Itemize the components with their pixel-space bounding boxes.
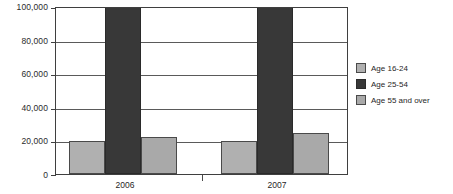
bar-2006-age-16-24 bbox=[69, 141, 105, 174]
bar-2006-age-25-54 bbox=[105, 8, 141, 174]
bar-2007-age-55-and-over bbox=[293, 133, 329, 174]
legend: Age 16-24 Age 25-54 Age 55 and over bbox=[356, 60, 451, 108]
legend-swatch-icon bbox=[356, 79, 366, 89]
y-axis-tick-label: 60,000 bbox=[21, 70, 48, 79]
x-axis-label-2006: 2006 bbox=[116, 180, 135, 190]
legend-swatch-icon bbox=[356, 95, 366, 105]
bar-2006-age-55-and-over bbox=[141, 137, 177, 174]
legend-item-label: Age 55 and over bbox=[371, 96, 430, 105]
plot-area bbox=[55, 7, 348, 175]
x-axis-label-2007: 2007 bbox=[268, 180, 287, 190]
bar-2007-age-16-24 bbox=[221, 141, 257, 174]
y-axis-tick-label: 0 bbox=[43, 171, 48, 180]
legend-item-age-25-54[interactable]: Age 25-54 bbox=[356, 76, 451, 92]
legend-item-label: Age 16-24 bbox=[371, 64, 408, 73]
y-axis-tick-mark bbox=[51, 175, 56, 176]
bars-layer bbox=[56, 8, 347, 174]
legend-swatch-icon bbox=[356, 63, 366, 73]
legend-item-age-16-24[interactable]: Age 16-24 bbox=[356, 60, 451, 76]
x-axis-tick-mark bbox=[202, 175, 203, 181]
y-axis-tick-label: 20,000 bbox=[21, 137, 48, 146]
y-axis-tick-label: 40,000 bbox=[21, 104, 48, 113]
bar-2007-age-25-54 bbox=[257, 8, 293, 174]
y-axis-labels: 100,000 80,000 60,000 40,000 20,000 0 bbox=[0, 0, 48, 194]
legend-item-label: Age 25-54 bbox=[371, 80, 408, 89]
y-axis-tick-label: 80,000 bbox=[21, 36, 48, 45]
bar-chart: 100,000 80,000 60,000 40,000 20,000 0 20… bbox=[0, 0, 453, 194]
y-axis-tick-label: 100,000 bbox=[17, 3, 48, 12]
legend-item-age-55-and-over[interactable]: Age 55 and over bbox=[356, 92, 451, 108]
